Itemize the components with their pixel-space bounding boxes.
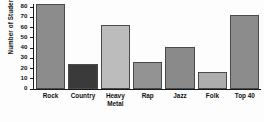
y-tick: 80: [30, 7, 33, 8]
y-tick-label: 10: [21, 74, 28, 82]
bar: [165, 47, 194, 89]
bar-slot: [196, 0, 228, 89]
bar-slot: [132, 0, 164, 89]
y-tick: 20: [30, 68, 33, 69]
y-tick-label: 40: [21, 43, 28, 51]
y-tick-label: 50: [21, 33, 28, 41]
bar: [68, 64, 97, 89]
x-axis-label: Folk: [196, 92, 228, 100]
y-tick-label: 20: [21, 64, 28, 72]
x-axis-label: Country: [67, 92, 99, 100]
bar: [198, 72, 227, 88]
x-axis-label: Jazz: [164, 92, 196, 100]
y-tick-label: 80: [21, 2, 28, 10]
bar-slot: [164, 0, 196, 89]
bar-slot: [34, 0, 66, 89]
y-tick-label: 60: [21, 23, 28, 31]
bar-slot: [67, 0, 99, 89]
bar-slot: [99, 0, 131, 89]
bar-slot: [229, 0, 261, 89]
y-axis-title: Number of Students: [7, 0, 14, 59]
x-axis-label: Rock: [34, 92, 66, 100]
x-axis-label: Heavy Metal: [99, 92, 131, 109]
bar: [36, 4, 65, 88]
y-tick: 70: [30, 17, 33, 18]
bar-chart: Number of Students 01020304050607080 Roc…: [0, 0, 264, 122]
bar: [101, 25, 130, 89]
y-tick: 60: [30, 27, 33, 28]
y-tick: 10: [30, 78, 33, 79]
y-tick: 40: [30, 48, 33, 49]
y-tick: 50: [30, 37, 33, 38]
x-axis-labels: RockCountryHeavy MetalRapJazzFolkTop 40: [33, 90, 261, 122]
y-tick-label: 30: [21, 53, 28, 61]
bar-series: [34, 0, 261, 89]
x-axis-label: Top 40: [229, 92, 261, 100]
y-tick-label: 0: [24, 84, 27, 92]
bar: [133, 62, 162, 89]
x-axis-label: Rap: [132, 92, 164, 100]
bar: [230, 15, 259, 89]
plot-area: 01020304050607080: [33, 0, 261, 89]
y-tick-label: 70: [21, 12, 28, 20]
y-tick: 30: [30, 58, 33, 59]
